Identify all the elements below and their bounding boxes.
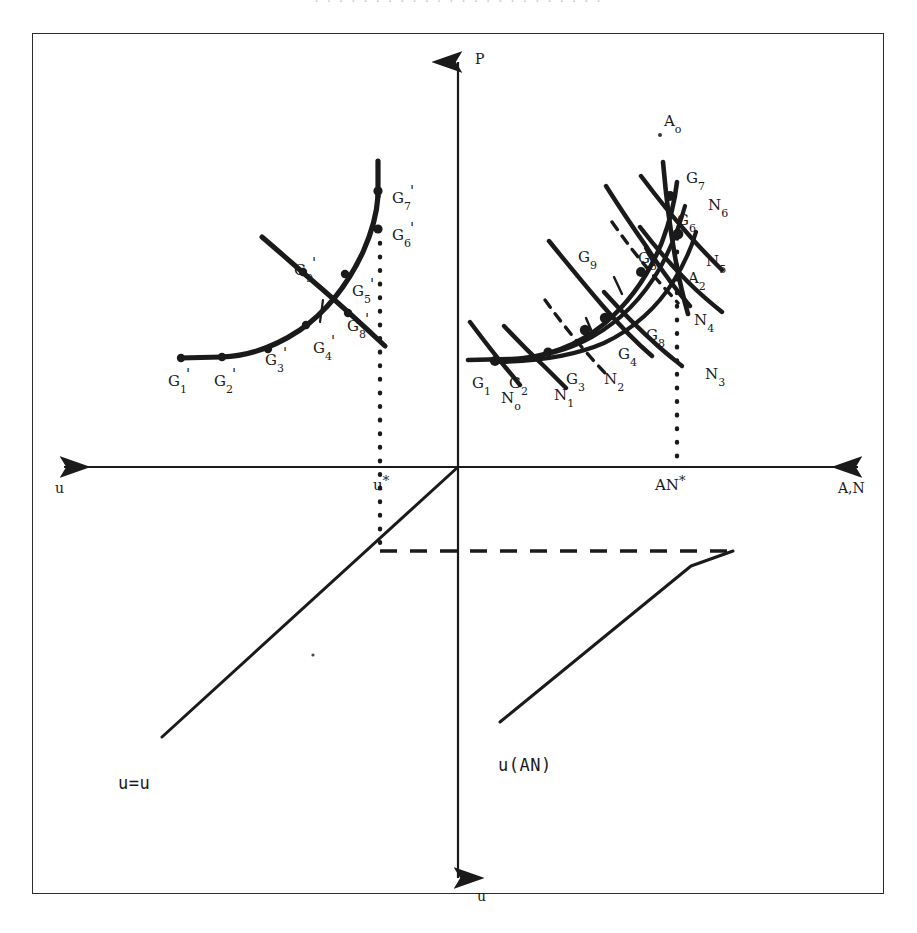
left-point-g6 xyxy=(373,224,382,233)
label-g4: G4 xyxy=(618,346,637,365)
right-curve-n2-dashed xyxy=(545,300,606,374)
label-n5: N5 xyxy=(706,253,726,272)
left-point-g1 xyxy=(177,354,185,362)
diagram-canvas xyxy=(0,0,917,933)
left-point-g5 xyxy=(341,270,349,278)
right-quadrant-curves xyxy=(468,162,722,388)
right-node-g3 xyxy=(543,347,552,356)
label-n4: N4 xyxy=(694,312,714,331)
axis-label-u-bottom: u xyxy=(477,889,486,903)
label-g2-prime: G2' xyxy=(214,373,237,392)
label-n0: No xyxy=(501,390,521,409)
right-tick-a xyxy=(614,277,622,294)
axis-group xyxy=(64,62,858,878)
label-n2: N2 xyxy=(604,371,624,390)
label-g1-prime: G1' xyxy=(168,373,191,392)
axis-label-A-N-right: A,N xyxy=(838,481,865,495)
axis-label-P: P xyxy=(475,52,484,66)
u-equals-u-line xyxy=(162,467,458,737)
left-point-g8 xyxy=(344,309,352,317)
label-g9: G9 xyxy=(578,249,597,268)
label-g9-prime: G9' xyxy=(294,262,317,281)
label-n3: N3 xyxy=(705,366,725,385)
label-u-of-an: u(AN) xyxy=(498,757,552,774)
label-g7: G7 xyxy=(686,170,705,189)
label-g7-prime: G7' xyxy=(392,190,415,209)
left-point-g7 xyxy=(373,186,382,195)
u-of-an-curve xyxy=(500,551,733,722)
left-point-g2 xyxy=(218,353,226,361)
left-point-g4 xyxy=(302,321,310,329)
right-node-g4 xyxy=(600,313,610,323)
label-g3-prime: G3' xyxy=(265,352,288,371)
right-node-g7 xyxy=(665,191,675,201)
label-g6-prime: G6' xyxy=(392,227,415,246)
label-g8: G8 xyxy=(646,327,665,346)
left-g4-tick xyxy=(320,300,323,322)
label-n1: N1 xyxy=(554,387,574,406)
label-g5-prime: G5' xyxy=(352,283,375,302)
label-g8-prime: G8' xyxy=(347,318,370,337)
label-g5: G5 xyxy=(638,250,657,269)
label-g6: G6 xyxy=(677,212,696,231)
figure-page: · · · · · · · · · · · · · · · · · · · · … xyxy=(0,0,917,933)
label-a2: A2 xyxy=(688,270,706,289)
axis-label-u-left: u xyxy=(55,481,64,495)
right-curve-g8 xyxy=(604,292,682,366)
label-g4-prime: G4' xyxy=(313,340,336,359)
scan-speck-1 xyxy=(311,653,314,656)
label-n6: N6 xyxy=(708,197,728,216)
marker-label-an-star: AN* xyxy=(655,477,685,493)
right-node-g9 xyxy=(580,325,590,335)
dotted-verticals xyxy=(380,238,677,551)
marker-label-u-star: u* xyxy=(373,477,389,493)
right-node-origin xyxy=(490,356,500,366)
label-g1: G1 xyxy=(472,375,491,394)
scan-speck-2 xyxy=(658,133,662,137)
label-a0: Ao xyxy=(664,113,681,132)
label-u-equals-u: u=u xyxy=(118,775,150,792)
